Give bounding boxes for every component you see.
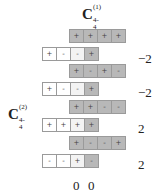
group-1-bottom-row: + - - + bbox=[42, 47, 98, 60]
cell: + bbox=[83, 29, 98, 43]
title-c4-4-1: C (1) 4-4 bbox=[82, 7, 93, 22]
group-2-bottom-row: + - - + bbox=[42, 82, 98, 95]
cell: + bbox=[42, 118, 57, 132]
cell: - bbox=[111, 100, 126, 114]
group-4-top-row: + - - + bbox=[69, 136, 125, 149]
group-4-value: 2 bbox=[138, 157, 145, 173]
title-superscript: (1) bbox=[93, 4, 101, 11]
cell: + bbox=[111, 136, 126, 150]
cell: + bbox=[84, 47, 99, 61]
bottom-value-2: 0 bbox=[88, 178, 95, 194]
cell: + bbox=[42, 47, 57, 61]
cell: - bbox=[70, 47, 85, 61]
group-3-value: 2 bbox=[138, 121, 145, 137]
group-2-value: −2 bbox=[138, 85, 152, 101]
group-3-top-row: + + - - bbox=[69, 100, 125, 113]
cell: + bbox=[70, 154, 85, 168]
cell: + bbox=[83, 100, 98, 114]
group-1-top-row: + + + + bbox=[69, 29, 125, 42]
cell: - bbox=[56, 82, 71, 96]
cell: + bbox=[69, 100, 84, 114]
cell: + bbox=[97, 64, 112, 78]
cell: - bbox=[56, 154, 71, 168]
title-base: C bbox=[82, 6, 93, 22]
side-label-c4-4-2: C (2) 4-4 bbox=[8, 107, 19, 122]
cell: - bbox=[84, 154, 99, 168]
cell: + bbox=[69, 29, 84, 43]
cell: - bbox=[97, 136, 112, 150]
group-2-top-row: + - + - bbox=[69, 64, 125, 77]
cell: - bbox=[83, 136, 98, 150]
cell: + bbox=[84, 118, 99, 132]
cell: + bbox=[97, 29, 112, 43]
cell: + bbox=[42, 82, 57, 96]
group-4-bottom-row: - - + - bbox=[42, 154, 98, 167]
group-3-bottom-row: + + + + bbox=[42, 118, 98, 131]
cell: - bbox=[97, 100, 112, 114]
group-1-value: −2 bbox=[138, 51, 152, 67]
cell: - bbox=[83, 64, 98, 78]
side-label-base: C bbox=[8, 106, 19, 122]
cell: - bbox=[70, 82, 85, 96]
bottom-value-1: 0 bbox=[73, 178, 80, 194]
cell: - bbox=[42, 154, 57, 168]
cell: + bbox=[111, 29, 126, 43]
cell: + bbox=[84, 82, 99, 96]
cell: + bbox=[56, 118, 71, 132]
side-label-subscript: 4-4 bbox=[19, 117, 25, 131]
side-label-superscript: (2) bbox=[19, 104, 27, 111]
cell: + bbox=[69, 136, 84, 150]
cell: + bbox=[69, 64, 84, 78]
cell: - bbox=[111, 64, 126, 78]
cell: + bbox=[70, 118, 85, 132]
cell: - bbox=[56, 47, 71, 61]
